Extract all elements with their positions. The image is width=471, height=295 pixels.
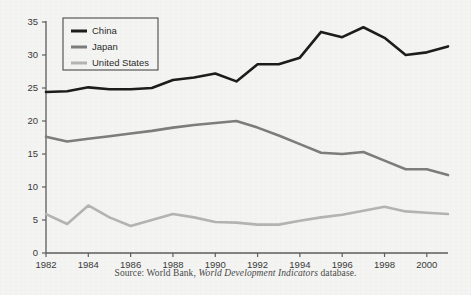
y-tick-label: 25 <box>27 82 38 93</box>
legend-label-japan: Japan <box>92 41 118 52</box>
figure-page: 05101520253035 1982198419861988199019921… <box>0 0 471 295</box>
y-tick-label: 10 <box>27 181 38 192</box>
y-tick-label: 30 <box>27 49 38 60</box>
y-axis: 05101520253035 <box>27 16 46 258</box>
y-tick-label: 5 <box>33 214 38 225</box>
series-line-japan <box>46 121 448 175</box>
line-chart-figure: 05101520253035 1982198419861988199019921… <box>0 0 471 295</box>
source-suffix: database. <box>321 268 357 278</box>
chart-svg: 05101520253035 1982198419861988199019921… <box>0 0 471 295</box>
chart-legend: ChinaJapanUnited States <box>63 18 158 70</box>
legend-label-united-states: United States <box>92 57 149 68</box>
y-tick-label: 35 <box>27 16 38 27</box>
source-prefix: Source: World Bank, <box>115 268 196 278</box>
y-tick-label: 0 <box>33 247 38 258</box>
source-italic-title: World Development Indicators <box>198 268 318 278</box>
source-note: Source: World Bank, World Development In… <box>0 268 471 278</box>
legend-label-china: China <box>92 25 118 36</box>
series-line-united-states <box>46 205 448 225</box>
y-tick-label: 20 <box>27 115 38 126</box>
y-tick-label: 15 <box>27 148 38 159</box>
